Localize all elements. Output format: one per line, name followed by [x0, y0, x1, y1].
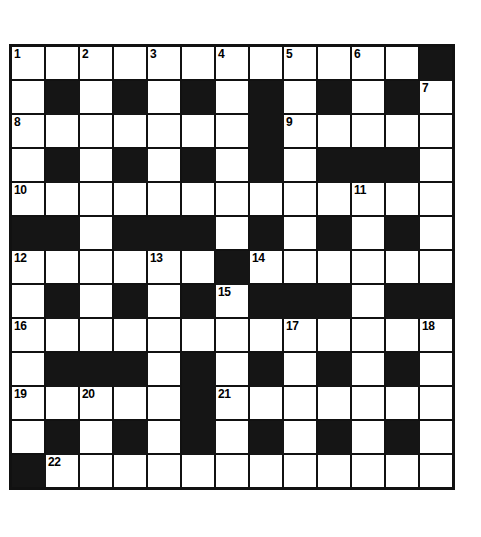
- crossword-cell[interactable]: [317, 182, 351, 216]
- crossword-cell[interactable]: [351, 250, 385, 284]
- crossword-cell[interactable]: [283, 352, 317, 386]
- crossword-cell[interactable]: [317, 386, 351, 420]
- crossword-cell[interactable]: [215, 352, 249, 386]
- crossword-cell[interactable]: [11, 420, 46, 454]
- crossword-cell[interactable]: [147, 148, 181, 182]
- crossword-cell[interactable]: [45, 182, 79, 216]
- crossword-cell[interactable]: 11: [351, 182, 385, 216]
- crossword-cell[interactable]: [113, 386, 147, 420]
- crossword-cell[interactable]: [385, 250, 419, 284]
- crossword-cell[interactable]: [11, 284, 46, 318]
- crossword-cell[interactable]: [317, 318, 351, 352]
- crossword-cell[interactable]: [113, 114, 147, 148]
- crossword-cell[interactable]: [79, 216, 113, 250]
- crossword-cell[interactable]: 5: [283, 46, 317, 81]
- crossword-cell[interactable]: 10: [11, 182, 46, 216]
- crossword-cell[interactable]: [45, 46, 79, 81]
- crossword-cell[interactable]: [79, 148, 113, 182]
- crossword-cell[interactable]: 2: [79, 46, 113, 81]
- crossword-cell[interactable]: 7: [419, 80, 454, 114]
- crossword-cell[interactable]: 15: [215, 284, 249, 318]
- crossword-cell[interactable]: [181, 250, 215, 284]
- crossword-cell[interactable]: [215, 80, 249, 114]
- crossword-cell[interactable]: [215, 454, 249, 489]
- crossword-cell[interactable]: [317, 454, 351, 489]
- crossword-cell[interactable]: [79, 318, 113, 352]
- crossword-cell[interactable]: [11, 80, 46, 114]
- crossword-cell[interactable]: [147, 182, 181, 216]
- crossword-cell[interactable]: [11, 352, 46, 386]
- crossword-cell[interactable]: [45, 114, 79, 148]
- crossword-cell[interactable]: [147, 318, 181, 352]
- crossword-cell[interactable]: [283, 148, 317, 182]
- crossword-cell[interactable]: [147, 284, 181, 318]
- crossword-cell[interactable]: [351, 386, 385, 420]
- crossword-cell[interactable]: 14: [249, 250, 283, 284]
- crossword-cell[interactable]: [283, 420, 317, 454]
- crossword-cell[interactable]: [181, 114, 215, 148]
- crossword-cell[interactable]: [385, 114, 419, 148]
- crossword-cell[interactable]: [11, 148, 46, 182]
- crossword-cell[interactable]: [79, 114, 113, 148]
- crossword-cell[interactable]: [351, 114, 385, 148]
- crossword-cell[interactable]: [181, 46, 215, 81]
- crossword-cell[interactable]: [385, 386, 419, 420]
- crossword-cell[interactable]: [317, 250, 351, 284]
- crossword-cell[interactable]: [215, 114, 249, 148]
- crossword-cell[interactable]: [283, 386, 317, 420]
- crossword-cell[interactable]: [147, 454, 181, 489]
- crossword-cell[interactable]: [351, 216, 385, 250]
- crossword-cell[interactable]: [385, 182, 419, 216]
- crossword-cell[interactable]: 18: [419, 318, 454, 352]
- crossword-cell[interactable]: [147, 420, 181, 454]
- crossword-cell[interactable]: [249, 46, 283, 81]
- crossword-cell[interactable]: [419, 148, 454, 182]
- crossword-cell[interactable]: [419, 386, 454, 420]
- crossword-cell[interactable]: [317, 46, 351, 81]
- crossword-cell[interactable]: [385, 454, 419, 489]
- crossword-cell[interactable]: 6: [351, 46, 385, 81]
- crossword-cell[interactable]: [113, 46, 147, 81]
- crossword-cell[interactable]: 13: [147, 250, 181, 284]
- crossword-cell[interactable]: [351, 420, 385, 454]
- crossword-cell[interactable]: 17: [283, 318, 317, 352]
- crossword-cell[interactable]: [79, 80, 113, 114]
- crossword-cell[interactable]: 12: [11, 250, 46, 284]
- crossword-cell[interactable]: [351, 454, 385, 489]
- crossword-cell[interactable]: [385, 318, 419, 352]
- crossword-cell[interactable]: [181, 318, 215, 352]
- crossword-cell[interactable]: [249, 454, 283, 489]
- crossword-cell[interactable]: [283, 80, 317, 114]
- crossword-cell[interactable]: [283, 182, 317, 216]
- crossword-cell[interactable]: [215, 182, 249, 216]
- crossword-cell[interactable]: [45, 318, 79, 352]
- crossword-cell[interactable]: [181, 182, 215, 216]
- crossword-cell[interactable]: [249, 318, 283, 352]
- crossword-cell[interactable]: 16: [11, 318, 46, 352]
- crossword-cell[interactable]: [351, 80, 385, 114]
- crossword-cell[interactable]: [249, 386, 283, 420]
- crossword-cell[interactable]: [113, 454, 147, 489]
- crossword-cell[interactable]: [249, 182, 283, 216]
- crossword-cell[interactable]: 1: [11, 46, 46, 81]
- crossword-cell[interactable]: 9: [283, 114, 317, 148]
- crossword-cell[interactable]: [79, 284, 113, 318]
- crossword-cell[interactable]: [385, 46, 419, 81]
- crossword-cell[interactable]: [351, 318, 385, 352]
- crossword-cell[interactable]: [79, 250, 113, 284]
- crossword-cell[interactable]: [79, 182, 113, 216]
- crossword-cell[interactable]: [419, 182, 454, 216]
- crossword-cell[interactable]: [317, 114, 351, 148]
- crossword-cell[interactable]: 21: [215, 386, 249, 420]
- crossword-cell[interactable]: [45, 386, 79, 420]
- crossword-grid[interactable]: 12345678910111213141516171819202122: [9, 44, 455, 490]
- crossword-cell[interactable]: [147, 114, 181, 148]
- crossword-cell[interactable]: 19: [11, 386, 46, 420]
- crossword-cell[interactable]: [45, 250, 79, 284]
- crossword-cell[interactable]: [147, 80, 181, 114]
- crossword-cell[interactable]: [283, 454, 317, 489]
- crossword-cell[interactable]: 22: [45, 454, 79, 489]
- crossword-cell[interactable]: [419, 420, 454, 454]
- crossword-cell[interactable]: [419, 114, 454, 148]
- crossword-cell[interactable]: [215, 216, 249, 250]
